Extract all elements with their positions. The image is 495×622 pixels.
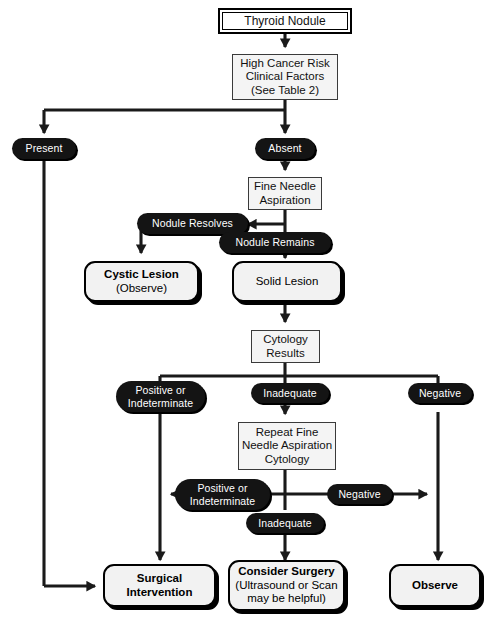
node-observe[interactable]: Observe <box>389 564 481 607</box>
node-cystic-lesion[interactable]: Cystic Lesion (Observe) <box>84 261 199 302</box>
node-consider-surgery-line1: Consider Surgery <box>238 565 335 579</box>
edge-label-nodule-resolves-text: Nodule Resolves <box>152 217 233 229</box>
edge-label-negative-1-text: Negative <box>419 387 461 399</box>
node-surgical-intervention-line1: Surgical <box>137 572 182 586</box>
flowchart-canvas: Thyroid Nodule High Cancer Risk Clinical… <box>0 0 495 622</box>
edge-label-negative-1[interactable]: Negative <box>408 383 472 403</box>
node-consider-surgery-line2: (Ultrasound or Scan <box>235 579 337 593</box>
node-consider-surgery[interactable]: Consider Surgery (Ultrasound or Scan may… <box>228 560 345 611</box>
edge-label-present-text: Present <box>26 142 63 154</box>
node-cytology-results[interactable]: Cytology Results <box>251 330 320 363</box>
edge-label-positive-indeterminate-1-line1: Positive or <box>135 384 185 396</box>
node-high-cancer-risk[interactable]: High Cancer Risk Clinical Factors (See T… <box>232 54 338 100</box>
node-solid-lesion[interactable]: Solid Lesion <box>232 261 342 302</box>
edge-label-positive-indeterminate-2-line2: Indeterminate <box>190 495 256 507</box>
edge-label-absent[interactable]: Absent <box>255 138 315 159</box>
edge-label-inadequate-1[interactable]: Inadequate <box>251 383 329 403</box>
node-fine-needle-aspiration-line1: Fine Needle <box>254 180 316 194</box>
edge-label-inadequate-1-text: Inadequate <box>263 387 317 399</box>
node-high-cancer-risk-line2: Clinical Factors <box>246 70 325 84</box>
node-solid-lesion-label: Solid Lesion <box>256 275 319 289</box>
node-surgical-intervention[interactable]: Surgical Intervention <box>103 564 216 607</box>
edge-label-positive-indeterminate-1-line2: Indeterminate <box>128 397 194 409</box>
node-surgical-intervention-line2: Intervention <box>127 586 193 600</box>
node-cytology-results-line2: Results <box>266 347 304 361</box>
node-cystic-lesion-line1: Cystic Lesion <box>104 268 179 282</box>
edge-label-absent-text: Absent <box>268 142 301 154</box>
edge-label-positive-indeterminate-1[interactable]: Positive or Indeterminate <box>116 381 205 412</box>
edge-label-inadequate-2-text: Inadequate <box>258 517 312 529</box>
node-high-cancer-risk-line1: High Cancer Risk <box>240 57 329 71</box>
edge-label-negative-2-text: Negative <box>338 488 380 500</box>
node-observe-label: Observe <box>412 579 458 593</box>
node-repeat-fna-cytology-line3: Cytology <box>265 453 310 467</box>
node-high-cancer-risk-line3: (See Table 2) <box>251 84 319 98</box>
node-fine-needle-aspiration[interactable]: Fine Needle Aspiration <box>248 177 322 210</box>
node-cystic-lesion-line2: (Observe) <box>116 282 167 296</box>
edge-label-nodule-remains-text: Nodule Remains <box>235 236 314 248</box>
node-repeat-fna-cytology[interactable]: Repeat Fine Needle Aspiration Cytology <box>238 422 336 470</box>
node-fine-needle-aspiration-line2: Aspiration <box>259 194 310 208</box>
node-thyroid-nodule[interactable]: Thyroid Nodule <box>218 8 352 34</box>
edge-label-positive-indeterminate-2-line1: Positive or <box>197 482 247 494</box>
edge-label-inadequate-2[interactable]: Inadequate <box>246 513 324 533</box>
edge-label-present[interactable]: Present <box>12 138 76 159</box>
node-repeat-fna-cytology-line1: Repeat Fine <box>256 426 319 440</box>
node-consider-surgery-line3: may be helpful) <box>247 592 326 606</box>
edge-label-positive-indeterminate-2[interactable]: Positive or Indeterminate <box>175 479 270 510</box>
node-thyroid-nodule-label: Thyroid Nodule <box>244 14 325 28</box>
edge-label-nodule-remains[interactable]: Nodule Remains <box>219 232 331 253</box>
edge-label-nodule-resolves[interactable]: Nodule Resolves <box>137 213 248 234</box>
node-cytology-results-line1: Cytology <box>263 333 308 347</box>
node-repeat-fna-cytology-line2: Needle Aspiration <box>242 439 332 453</box>
edge-label-negative-2[interactable]: Negative <box>327 484 392 504</box>
